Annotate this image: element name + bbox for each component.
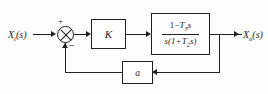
feedback-gain-block[interactable]: a bbox=[122, 61, 153, 84]
wire-feedback-down bbox=[219, 34, 220, 73]
block-diagram: Xi(s) + − K 1−T3s s(1+T2s) Xo(s) a bbox=[0, 0, 268, 94]
transfer-function-block[interactable]: 1−T3s s(1+T2s) bbox=[151, 13, 210, 55]
wire-feedback-to-a-block bbox=[152, 72, 219, 73]
transfer-function-numerator: 1−T3s bbox=[167, 20, 194, 34]
wire-gain-to-plant bbox=[126, 34, 146, 35]
output-signal-label: Xo(s) bbox=[243, 30, 263, 43]
gain-block[interactable]: K bbox=[91, 19, 126, 49]
denominator-suffix: s) bbox=[190, 36, 197, 46]
summer-minus-sign: − bbox=[68, 40, 74, 51]
transfer-function-denominator: s(1+T2s) bbox=[162, 34, 200, 49]
output-signal-argument: (s) bbox=[252, 29, 263, 40]
numerator-suffix: s bbox=[188, 20, 192, 30]
denominator-prefix: s(1+ bbox=[165, 36, 182, 46]
arrowhead-output bbox=[234, 31, 239, 37]
arrowhead-into-summer bbox=[51, 31, 56, 37]
input-signal-label: Xi(s) bbox=[8, 30, 26, 43]
wire-input-to-summer bbox=[33, 34, 51, 35]
input-signal-argument: (s) bbox=[16, 29, 27, 40]
summer-plus-sign: + bbox=[58, 17, 63, 26]
numerator-prefix: 1− bbox=[170, 20, 180, 30]
feedback-gain-label: a bbox=[135, 68, 140, 78]
gain-block-label: K bbox=[105, 28, 112, 40]
wire-summer-to-gain bbox=[74, 34, 86, 35]
wire-feedback-to-summer bbox=[65, 72, 122, 73]
arrowhead-into-summer-feedback bbox=[62, 43, 68, 48]
transfer-function-fraction: 1−T3s s(1+T2s) bbox=[162, 20, 200, 49]
